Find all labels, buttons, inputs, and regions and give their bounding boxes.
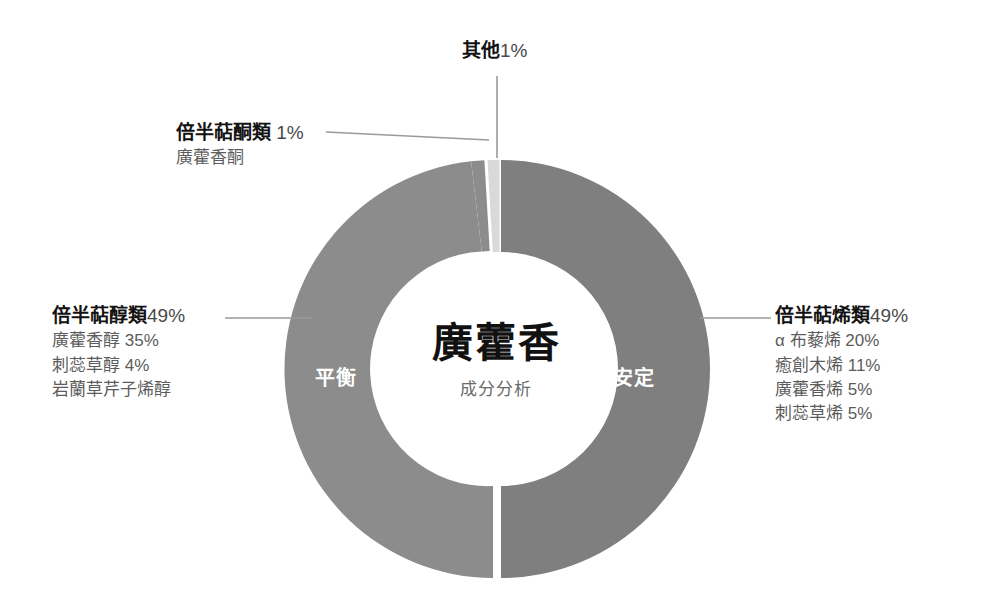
- label-terpene-item-4: 刺蕊草烯 5%: [775, 403, 908, 425]
- ring-label-stability: 安定: [613, 362, 655, 391]
- label-alcohol-item-1: 廣藿香醇 35%: [52, 330, 185, 352]
- label-ketone-head: 倍半萜酮類 1%: [176, 120, 304, 145]
- label-alcohol-item-2: 刺蕊草醇 4%: [52, 355, 185, 377]
- label-other: 其他1%: [462, 38, 527, 63]
- donut-center: 廣藿香 成分分析: [376, 322, 616, 400]
- label-alcohol: 倍半萜醇類49% 廣藿香醇 35% 刺蕊草醇 4% 岩蘭草芹子烯醇: [52, 303, 185, 401]
- chart-title: 廣藿香: [376, 322, 616, 365]
- slice-other[interactable]: [488, 160, 500, 252]
- label-alcohol-item-3: 岩蘭草芹子烯醇: [52, 379, 185, 401]
- label-alcohol-percent: 49%: [147, 305, 185, 326]
- label-terpene-head: 倍半萜烯類49%: [775, 303, 908, 328]
- label-alcohol-head: 倍半萜醇類49%: [52, 303, 185, 328]
- label-terpene-name: 倍半萜烯類: [775, 305, 870, 326]
- label-alcohol-name: 倍半萜醇類: [52, 305, 147, 326]
- label-terpene-item-2: 癒創木烯 11%: [775, 355, 908, 377]
- label-terpene-item-1: α 布藜烯 20%: [775, 330, 908, 352]
- leader-line-ketone: [326, 132, 489, 140]
- label-ketone: 倍半萜酮類 1% 廣藿香酮: [176, 120, 304, 170]
- label-ketone-name: 倍半萜酮類: [176, 122, 271, 143]
- label-other-name: 其他: [462, 40, 500, 61]
- chart-subtitle: 成分分析: [376, 375, 616, 400]
- label-terpene: 倍半萜烯類49% α 布藜烯 20% 癒創木烯 11% 廣藿香烯 5% 刺蕊草烯…: [775, 303, 908, 426]
- label-terpene-item-3: 廣藿香烯 5%: [775, 379, 908, 401]
- label-other-head: 其他1%: [462, 38, 527, 63]
- ring-label-balance: 平衡: [315, 362, 357, 391]
- label-other-percent: 1%: [500, 40, 527, 61]
- label-terpene-percent: 49%: [870, 305, 908, 326]
- chart-canvas: 其他1% 倍半萜酮類 1% 廣藿香酮 倍半萜醇類49% 廣藿香醇 35% 刺蕊草…: [0, 0, 982, 609]
- label-ketone-percent: 1%: [276, 122, 303, 143]
- label-ketone-item-1: 廣藿香酮: [176, 147, 304, 169]
